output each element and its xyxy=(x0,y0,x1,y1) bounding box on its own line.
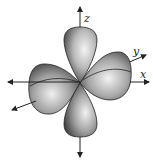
y-axis-front xyxy=(12,101,36,110)
orbital-diagram: z y x xyxy=(0,0,153,161)
y-axis-label: y xyxy=(132,45,140,58)
x-axis-label: x xyxy=(140,68,147,81)
z-axis-label: z xyxy=(83,12,90,25)
